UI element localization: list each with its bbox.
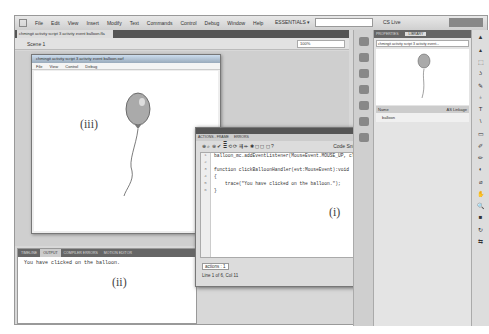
menu-help[interactable]: Help [253,20,263,26]
library-list-header: Name AS Linkage [376,106,469,113]
dock-icon[interactable] [359,101,369,110]
line-number: 1 [201,153,210,160]
zoom-tool-icon[interactable]: 🔍 [477,202,485,210]
scene-label[interactable]: Scene 1 [27,41,45,47]
menu-insert[interactable]: Insert [86,20,99,26]
pen-tool-icon[interactable]: ♁ [477,94,485,102]
column-linkage[interactable]: AS Linkage [447,107,467,112]
dock-icon[interactable] [359,117,369,126]
library-tabs: PROPERTIES LIBRARY [374,30,471,38]
tools-panel: ▲ ▴ ⬚ ʖ ✎ ♁ T \ ▭ ✐ ✏ ◐ ⌀ ✋ 🔍 ■ ↻ ⇆ [471,30,489,326]
code-editor[interactable]: 1 2 3 4 5 6 balloon_mc.addEventListener(… [200,152,368,258]
swf-menu-debug[interactable]: Debug [85,64,97,69]
cs-live-button[interactable]: CS Live [383,19,401,25]
selection-tool-icon[interactable]: ▲ [477,34,485,42]
paint-bucket-tool-icon[interactable]: ◐ [477,166,485,174]
line-number: 6 [201,188,210,195]
library-panel: PROPERTIES LIBRARY chmingit activity scr… [373,30,471,326]
pencil-tool-icon[interactable]: ✐ [477,142,485,150]
balloon-preview-icon [414,53,434,103]
column-name[interactable]: Name [378,107,389,112]
label-iii: (iii) [80,117,98,132]
output-text: You have clicked on the balloon. [18,257,196,269]
text-tool-icon[interactable]: T [477,106,485,114]
3d-rotation-tool-icon[interactable]: ʖ [477,70,485,78]
menu-modify[interactable]: Modify [107,20,122,26]
dock-icon[interactable] [359,85,369,94]
dock-icon[interactable] [359,69,369,78]
menu-debug[interactable]: Debug [205,20,220,26]
library-document-select[interactable]: chmingit activity script 3 activity even… [376,40,469,47]
menubar: File Edit View Insert Modify Text Comman… [15,16,487,30]
document-tabs: chmingit activity script 3 activity even… [15,30,349,38]
tab-output[interactable]: OUTPUT [40,249,60,257]
workspace-switcher[interactable]: ESSENTIALS ▾ [275,19,310,25]
window-controls[interactable] [449,18,483,27]
eyedropper-tool-icon[interactable]: ⌀ [477,178,485,186]
label-i: (i) [329,205,340,220]
actions-tool-icons[interactable]: ⊕ ⌕ ⊛ ✔ ≣ ⟲ ⟳ ⇶ ⇷ ✱ ◻ ◻ ◻ ? [202,143,274,150]
swf-player-window: chmingit activity script 3 activity even… [31,54,221,234]
tab-library[interactable]: LIBRARY [405,32,426,36]
stroke-color-icon[interactable]: ■ [477,214,485,222]
line-gutter: 1 2 3 4 5 6 [201,153,211,257]
swap-colors-icon[interactable]: ↻ [477,226,485,234]
help-search-input[interactable] [315,18,373,27]
menu-text[interactable]: Text [130,20,139,26]
cursor-status: Line 1 of 6, Col 11 [202,273,238,278]
menu-view[interactable]: View [68,20,79,26]
menu-edit[interactable]: Edit [51,20,60,26]
scene-bar: Scene 1 100% [15,38,349,50]
flash-ide-window: File Edit View Insert Modify Text Comman… [14,15,488,325]
tab-errors[interactable]: ERRORS [234,135,249,139]
tab-properties[interactable]: PROPERTIES [376,32,399,36]
actions-file-tab[interactable]: actions : 1 [202,263,229,270]
brush-tool-icon[interactable]: ✏ [477,154,485,162]
swf-menu-view[interactable]: View [50,64,59,69]
menu-commands[interactable]: Commands [147,20,173,26]
swf-menubar: File View Control Debug [32,63,220,70]
output-tabs: TIMELINE OUTPUT COMPILER ERRORS MOTION E… [18,249,196,257]
actions-toolbar: ⊕ ⌕ ⊛ ✔ ≣ ⟲ ⟳ ⇶ ⇷ ✱ ◻ ◻ ◻ ? Code Snippet… [196,141,372,151]
label-ii: (ii) [112,275,127,290]
swf-canvas: (iii) [34,71,218,231]
line-number: 4 [201,174,210,181]
output-panel: TIMELINE OUTPUT COMPILER ERRORS MOTION E… [17,248,197,324]
dock-icon[interactable] [359,53,369,62]
swf-menu-file[interactable]: File [36,64,42,69]
balloon-icon[interactable] [118,91,158,201]
subselection-tool-icon[interactable]: ▴ [477,46,485,54]
tab-timeline[interactable]: TIMELINE [18,249,40,257]
actions-panel: ACTIONS - FRAME ERRORS ⊕ ⌕ ⊛ ✔ ≣ ⟲ ⟳ ⇶ ⇷… [195,127,373,287]
tab-compiler-errors[interactable]: COMPILER ERRORS [61,249,101,257]
options-icon[interactable]: ⇆ [477,238,485,246]
menu-window[interactable]: Window [227,20,245,26]
dock-icon[interactable] [359,37,369,46]
panel-icon-dock [353,30,373,326]
document-tab[interactable]: chmingit activity script 3 activity even… [17,30,113,38]
hand-tool-icon[interactable]: ✋ [477,190,485,198]
line-number: 3 [201,167,210,174]
library-preview [376,49,469,105]
tab-motion-editor[interactable]: MOTION EDITOR [101,249,135,257]
line-tool-icon[interactable]: \ [477,118,485,126]
app-logo-icon [19,19,27,27]
actions-tabs: ACTIONS - FRAME ERRORS [196,134,372,141]
line-number: 2 [201,160,210,167]
tab-actions-frame[interactable]: ACTIONS - FRAME [198,135,229,139]
rectangle-tool-icon[interactable]: ▭ [477,130,485,138]
swf-menu-control[interactable]: Control [65,64,78,69]
dock-icon[interactable] [359,133,369,142]
menu-file[interactable]: File [35,20,43,26]
zoom-select[interactable]: 100% [297,40,345,48]
lasso-tool-icon[interactable]: ✎ [477,82,485,90]
swf-title: chmingit activity script 3 activity even… [32,55,220,63]
line-number: 5 [201,181,210,188]
library-list: Name AS Linkage balloon [376,106,469,122]
library-item[interactable]: balloon [376,113,469,122]
transform-tool-icon[interactable]: ⬚ [477,58,485,66]
menu-control[interactable]: Control [180,20,196,26]
